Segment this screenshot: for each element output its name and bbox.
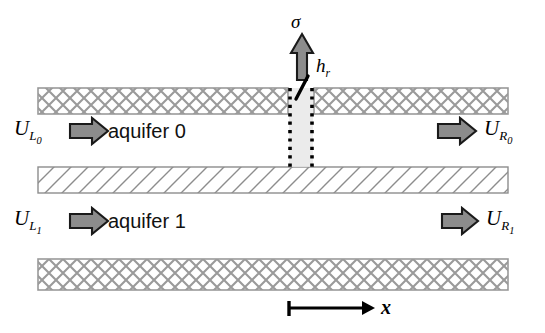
bottom-confining-layer bbox=[38, 259, 508, 290]
flux-symbol: U bbox=[14, 116, 29, 140]
flux-index-sub: 0 bbox=[507, 135, 512, 146]
recharge-flux-arrow bbox=[291, 34, 313, 80]
head-symbol-main: h bbox=[316, 55, 326, 76]
aquifer-1-label: aquifer 1 bbox=[108, 211, 186, 231]
flux-index-sub: 1 bbox=[509, 225, 514, 236]
inflow-arrow-aquifer-1 bbox=[70, 208, 108, 234]
inflow-label-aquifer-1: UL1 bbox=[14, 208, 42, 236]
recharge-well bbox=[289, 88, 313, 167]
sigma-symbol-label: σ bbox=[291, 12, 300, 31]
x-axis-label: x bbox=[381, 297, 391, 317]
aquifer-diagram bbox=[0, 0, 545, 333]
outflow-arrow-aquifer-1 bbox=[442, 208, 478, 234]
inflow-arrow-aquifer-0 bbox=[70, 118, 108, 144]
head-symbol-label: hr bbox=[316, 56, 330, 80]
aquifer-0-label: aquifer 0 bbox=[108, 121, 186, 141]
diagram-canvas: σ hr aquifer 0 aquifer 1 UL0 UR0 UL1 UR1… bbox=[0, 0, 545, 333]
top-confining-layer bbox=[38, 88, 508, 114]
inflow-label-aquifer-0: UL0 bbox=[14, 118, 42, 146]
flux-index-sub: 1 bbox=[36, 225, 41, 236]
outflow-label-aquifer-0: UR0 bbox=[484, 118, 512, 146]
aquitard-layer bbox=[38, 167, 508, 193]
outflow-arrow-aquifer-0 bbox=[438, 118, 476, 144]
flux-side-sub: R bbox=[499, 128, 507, 143]
flux-index-sub: 0 bbox=[36, 135, 41, 146]
x-axis-indicator bbox=[289, 301, 375, 316]
flux-side-sub: R bbox=[501, 218, 509, 233]
flux-symbol: U bbox=[484, 116, 499, 140]
head-symbol-sub: r bbox=[326, 67, 331, 80]
flux-symbol: U bbox=[14, 206, 29, 230]
outflow-label-aquifer-1: UR1 bbox=[486, 208, 514, 236]
flux-symbol: U bbox=[486, 206, 501, 230]
